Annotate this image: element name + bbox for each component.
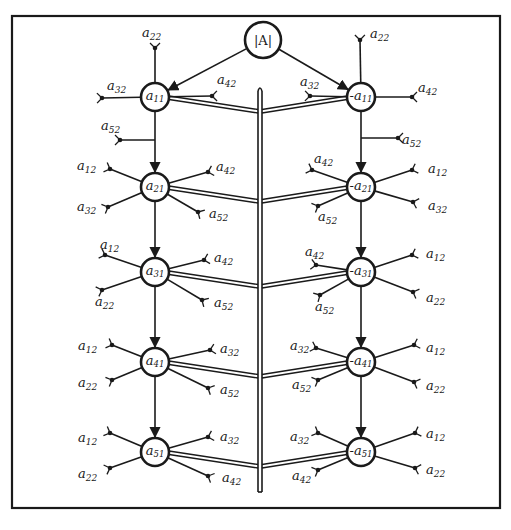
branch-label: a32 (220, 341, 239, 358)
tree-node: -a41 (347, 348, 375, 376)
trunk-link (169, 186, 258, 200)
branch-label: a42 (305, 244, 324, 261)
branch-label: a32 (290, 429, 309, 446)
trunk-link (169, 275, 258, 289)
branch-label: a42 (217, 72, 236, 89)
branch-label: a52 (101, 118, 120, 135)
branch-label: a12 (78, 430, 97, 447)
branch-label: a22 (142, 25, 161, 42)
trunk-link (262, 100, 347, 114)
branch-label: a22 (426, 378, 445, 395)
branch-label: a12 (100, 237, 119, 254)
tree-node: a51 (141, 438, 169, 466)
trunk-link (262, 190, 347, 204)
branch-terminal (361, 133, 403, 143)
branch-label: a12 (428, 161, 447, 178)
branch-label: a42 (214, 250, 233, 267)
branch-terminal (169, 344, 216, 359)
branch-terminal (105, 367, 142, 386)
trunk-link (262, 455, 347, 469)
branch-terminal (169, 254, 210, 269)
branch-terminal (375, 92, 417, 102)
branch-terminal (115, 135, 155, 145)
trunk-link (262, 96, 347, 110)
branch-terminal (168, 431, 214, 448)
branch-label: a42 (292, 468, 311, 485)
tree-node: -a31 (347, 258, 375, 286)
tree-node: a31 (141, 258, 169, 286)
branch-terminal (374, 427, 421, 448)
trunk-link (262, 186, 347, 200)
branch-terminal (374, 367, 420, 389)
branch-label: a22 (78, 466, 97, 483)
branch-label: a12 (78, 338, 97, 355)
branch-terminal (374, 249, 418, 268)
branch-terminal (168, 458, 215, 483)
branch-label: a12 (426, 426, 445, 443)
tree-node: a21 (141, 173, 169, 201)
branch-terminal (103, 426, 142, 446)
root-node-label: |A| (254, 33, 272, 48)
branch-label: a52 (220, 382, 239, 399)
branch-label: a12 (426, 340, 445, 357)
diagram-canvas: |A|a11a21a31a41a51-a11-a21-a31-a41-a51 a… (0, 0, 511, 530)
tree-node: -a51 (347, 438, 375, 466)
trunk-link (262, 275, 347, 289)
branch-label: a52 (292, 377, 311, 394)
trunk-link (262, 365, 347, 379)
branch-label: a42 (222, 470, 241, 487)
tree-node: -a21 (347, 173, 375, 201)
branch-label: a52 (402, 132, 421, 149)
trunk-link (262, 271, 347, 285)
branch-terminal (374, 191, 419, 208)
branch-terminal (106, 339, 142, 357)
central-trunk (258, 88, 262, 492)
branch-label: a22 (95, 294, 114, 311)
branch-terminal (101, 192, 142, 213)
branch-terminal (168, 166, 214, 183)
branch-terminal (150, 43, 160, 83)
branch-terminal (374, 339, 420, 358)
trunk-link (169, 190, 258, 204)
branch-label: a52 (318, 209, 337, 226)
branch-terminal (374, 277, 419, 298)
branch-terminal (311, 193, 348, 213)
trunk-link (169, 271, 258, 285)
branch-label: a52 (214, 295, 233, 312)
branch-label: a32 (428, 198, 447, 215)
branch-label: a52 (209, 206, 228, 223)
trunk-link (169, 361, 258, 375)
branch-terminal (104, 457, 142, 475)
tree-node: a41 (141, 348, 169, 376)
branch-label: a42 (314, 151, 333, 168)
branch-label: a22 (426, 290, 445, 307)
branch-terminal (374, 456, 421, 474)
branch-label: a22 (370, 26, 389, 43)
branch-label: a22 (426, 462, 445, 479)
branch-terminal (104, 163, 143, 182)
branch-label: a52 (315, 299, 334, 316)
branch-label: a32 (77, 199, 96, 216)
branch-terminal (311, 426, 348, 446)
trunk-link (169, 451, 258, 465)
branch-label: a22 (78, 375, 97, 392)
branch-terminal (311, 367, 348, 386)
branch-terminal (355, 35, 365, 83)
root-node: |A| (245, 22, 281, 58)
branch-label: a42 (216, 159, 235, 176)
tree-node: a11 (141, 83, 169, 111)
branch-terminal (310, 342, 348, 358)
branch-terminal (168, 368, 215, 395)
branch-label: a32 (107, 78, 126, 95)
trunk-link (169, 100, 258, 114)
branch-label: a12 (77, 158, 96, 175)
branch-terminal (374, 164, 418, 183)
branch-label: a42 (418, 80, 437, 97)
branch-label: a32 (220, 429, 239, 446)
branch-terminal (167, 279, 209, 307)
branch-label: a32 (290, 338, 309, 355)
branch-label: a12 (426, 246, 445, 263)
tree-node: -a11 (347, 83, 375, 111)
branch-label: a32 (300, 74, 319, 91)
branch-terminal (311, 457, 348, 476)
